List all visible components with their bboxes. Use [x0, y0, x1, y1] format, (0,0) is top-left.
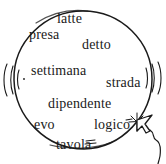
illustration-canvas: latte presa detto settimana strada dipen…	[0, 0, 166, 164]
word-detto[interactable]: detto	[82, 38, 111, 52]
word-presa[interactable]: presa	[29, 28, 60, 42]
word-strada[interactable]: strada	[106, 76, 141, 90]
word-tavola[interactable]: tavola	[56, 138, 91, 152]
word-dipendente[interactable]: dipendente	[48, 97, 111, 111]
cursor-tail	[150, 130, 160, 164]
word-latte[interactable]: latte	[57, 12, 82, 26]
word-logico[interactable]: logico	[94, 118, 130, 132]
word-evo[interactable]: evo	[34, 118, 55, 132]
word-settimana[interactable]: settimana	[31, 64, 86, 78]
